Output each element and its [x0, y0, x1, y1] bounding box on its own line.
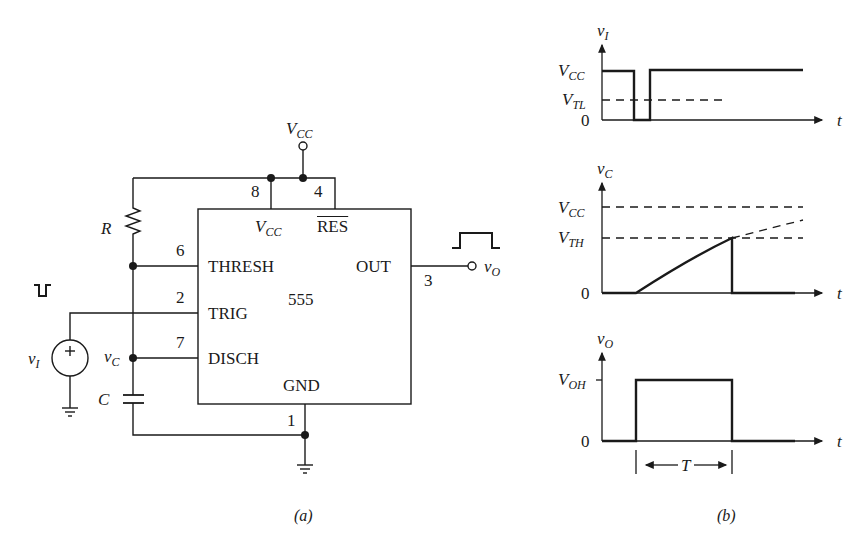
plot3-tick-voh: VOH: [558, 371, 586, 388]
capacitor-label: C: [98, 391, 109, 408]
pin3-number: 3: [424, 272, 433, 289]
plot2-tick-vth: VTH: [558, 229, 584, 246]
disch-label: DISCH: [208, 350, 259, 367]
plot2-tick-zero: 0: [581, 285, 590, 302]
plot2-xlabel: t: [837, 285, 842, 302]
interval-label-t: T: [679, 457, 692, 474]
negative-pulse-icon: [34, 285, 51, 296]
supply-label: VCC: [286, 120, 312, 137]
thresh-label: THRESH: [208, 258, 274, 275]
out-label: OUT: [356, 258, 391, 275]
pin4-number: 4: [314, 183, 323, 200]
pin1-number: 1: [287, 412, 296, 429]
caption-b: (b): [717, 508, 736, 524]
pin8-number: 8: [251, 183, 260, 200]
plot3-tick-zero: 0: [581, 433, 590, 450]
source-ground-icon: [62, 408, 78, 416]
chip-reset-label: RES: [317, 218, 348, 235]
ground-icon: [297, 465, 313, 473]
pin6-number: 6: [176, 242, 185, 259]
supply-rail: [133, 178, 335, 209]
voltage-source-vi: [52, 340, 88, 376]
plot1-ylabel: vI: [597, 22, 609, 39]
plot1-tick-vtl: VTL: [562, 91, 586, 108]
chip-vcc-label: VCC: [255, 218, 281, 235]
plot3-ylabel: vO: [597, 330, 613, 347]
plot1-tick-zero: 0: [581, 112, 590, 129]
plot-vi: [602, 45, 822, 120]
positive-pulse-icon: [452, 233, 500, 248]
pin2-number: 2: [176, 289, 185, 306]
caption-a: (a): [294, 508, 313, 524]
chip-name: 555: [288, 291, 314, 308]
plot2-tick-vcc: VCC: [558, 199, 584, 216]
vcc-terminal: [299, 142, 307, 150]
plot3-xlabel: t: [837, 433, 842, 450]
plot-vc: [602, 183, 822, 293]
pin7-number: 7: [176, 334, 185, 351]
resistor-label: R: [101, 220, 111, 237]
plot1-xlabel: t: [837, 112, 842, 129]
plot2-ylabel: vC: [597, 160, 613, 177]
gnd-label: GND: [283, 377, 320, 394]
plot1-tick-vcc: VCC: [558, 62, 584, 79]
output-label: vO: [484, 258, 500, 275]
source-label: vI: [28, 350, 40, 367]
output-terminal: [468, 262, 476, 270]
trig-label: TRIG: [208, 305, 248, 322]
plot-vo: [596, 353, 822, 474]
plus-icon: [65, 346, 75, 356]
node-vc-label: vC: [104, 348, 120, 365]
bottom-ground-wire: [133, 403, 305, 435]
resistor-r: [126, 178, 140, 266]
